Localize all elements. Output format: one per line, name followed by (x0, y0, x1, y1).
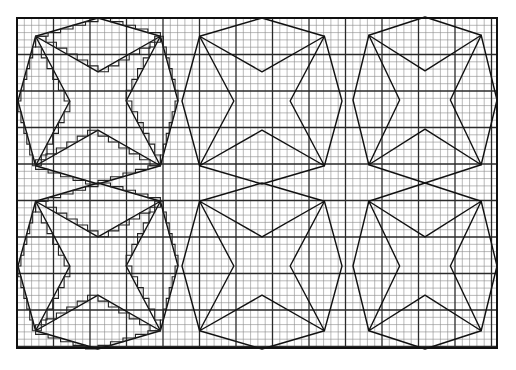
octagon-star-figure (18, 18, 178, 184)
x-star-outline (200, 36, 325, 165)
octagon-star-figure (182, 18, 342, 184)
octagon-outline (182, 18, 342, 184)
x-star-outline (36, 36, 161, 165)
graph-paper-diagram (0, 0, 516, 370)
octagon-outline (18, 18, 178, 184)
